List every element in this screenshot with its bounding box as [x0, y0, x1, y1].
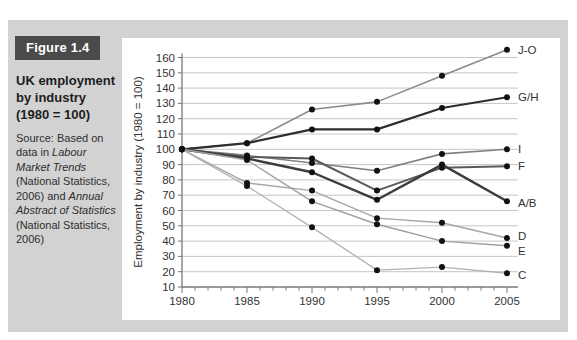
data-point	[244, 183, 250, 189]
figure-number-badge: Figure 1.4	[15, 36, 100, 60]
data-point	[504, 146, 510, 152]
data-point	[504, 270, 510, 276]
series-line	[182, 149, 507, 245]
data-point	[439, 73, 445, 79]
series-label: C	[518, 269, 526, 281]
data-point	[374, 267, 380, 273]
data-point	[439, 220, 445, 226]
series-label: I	[518, 143, 521, 155]
data-point	[309, 155, 315, 161]
data-point	[309, 224, 315, 230]
x-tick-label: 1990	[299, 295, 325, 307]
x-tick-label: 2005	[494, 295, 520, 307]
chart-svg: 1020304050607080901001101201301401501601…	[122, 38, 560, 320]
y-tick-label: 10	[162, 281, 175, 293]
figure-sidebar: UK employment by industry (1980 = 100) S…	[16, 73, 118, 247]
y-tick-label: 40	[162, 235, 175, 247]
data-point	[374, 126, 380, 132]
data-point	[439, 162, 445, 168]
y-tick-label: 70	[162, 189, 175, 201]
data-point	[374, 99, 380, 105]
y-tick-label: 30	[162, 250, 175, 262]
data-point	[504, 47, 510, 53]
data-point	[504, 163, 510, 169]
data-point	[439, 105, 445, 111]
source-text: (National Statistics, 2006)	[16, 219, 110, 246]
x-tick-label: 1995	[364, 295, 390, 307]
data-point	[374, 197, 380, 203]
figure-title: UK employment by industry (1980 = 100)	[16, 73, 118, 124]
y-tick-label: 140	[156, 82, 175, 94]
figure-source: Source: Based on data in Labour Market T…	[16, 131, 118, 247]
data-point	[309, 126, 315, 132]
data-point	[439, 151, 445, 157]
data-point	[504, 235, 510, 241]
y-tick-label: 90	[162, 159, 175, 171]
x-tick-label: 1980	[169, 295, 195, 307]
data-point	[504, 94, 510, 100]
y-tick-label: 100	[156, 143, 175, 155]
series-label: A/B	[518, 197, 537, 209]
page: { "figure": { "tag": "Figure 1.4", "titl…	[0, 0, 577, 340]
data-point	[179, 146, 185, 152]
chart-area: 1020304050607080901001101201301401501601…	[122, 38, 560, 320]
data-point	[374, 188, 380, 194]
y-tick-label: 130	[156, 97, 175, 109]
x-tick-label: 1985	[234, 295, 260, 307]
data-point	[309, 188, 315, 194]
series-label: J-O	[518, 44, 537, 56]
y-axis-title: Employment by industry (1980 = 100)	[132, 76, 144, 268]
x-tick-label: 2000	[429, 295, 455, 307]
series-label: G/H	[518, 91, 538, 103]
data-point	[374, 168, 380, 174]
data-point	[374, 215, 380, 221]
y-tick-label: 60	[162, 205, 175, 217]
data-point	[309, 198, 315, 204]
y-tick-label: 80	[162, 174, 175, 186]
y-tick-label: 150	[156, 67, 175, 79]
series-line	[182, 149, 507, 238]
data-point	[439, 238, 445, 244]
data-point	[504, 198, 510, 204]
data-point	[309, 107, 315, 113]
series-label: D	[518, 230, 526, 242]
data-point	[504, 243, 510, 249]
y-tick-label: 120	[156, 113, 175, 125]
figure-panel: Figure 1.4 UK employment by industry (19…	[8, 20, 568, 332]
data-point	[309, 169, 315, 175]
y-tick-label: 160	[156, 52, 175, 64]
series-label: E	[518, 245, 526, 257]
data-point	[244, 157, 250, 163]
y-tick-label: 20	[162, 266, 175, 278]
y-tick-label: 110	[157, 128, 175, 140]
series-label: F	[518, 160, 525, 172]
data-point	[244, 140, 250, 146]
y-tick-label: 50	[162, 220, 175, 232]
data-point	[439, 264, 445, 270]
data-point	[374, 221, 380, 227]
